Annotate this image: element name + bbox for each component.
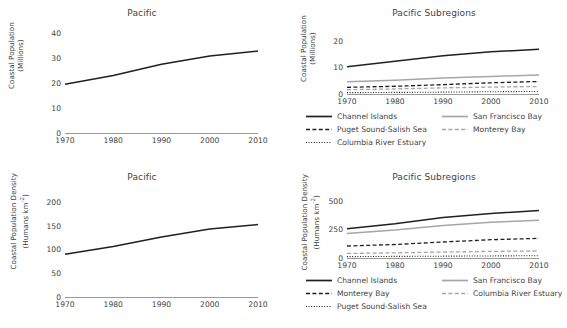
panel-title: Pacific: [0, 8, 284, 18]
series-canvas: [347, 194, 539, 258]
y-tick-label: 40: [33, 29, 61, 38]
x-tick-label: 1970: [55, 300, 74, 309]
legend-label: Puget Sound-Salish Sea: [337, 125, 427, 134]
series-line: [347, 220, 539, 233]
y-tick-label: 50: [33, 269, 61, 278]
x-tick-label: 1980: [104, 136, 123, 145]
legend-swatch-icon: [306, 139, 332, 146]
y-tick-label: 150: [33, 221, 61, 230]
series-line: [347, 75, 539, 82]
legend-item: San Francisco Bay: [442, 276, 542, 285]
y-tick-label: 10: [33, 104, 61, 113]
legend-label: Monterey Bay: [473, 125, 526, 134]
y-tick-label: 10: [315, 63, 343, 72]
legend-label: Channel Islands: [337, 276, 397, 285]
y-tick-label: 250: [315, 225, 343, 234]
plot-area: [347, 30, 539, 94]
y-axis-units: (Humans km: [21, 203, 30, 249]
x-axis-line: [65, 297, 258, 298]
x-tick-label: 2010: [529, 97, 548, 106]
plot-area: [65, 33, 258, 133]
x-tick-label: 1970: [55, 136, 74, 145]
x-tick-label: 1990: [152, 136, 171, 145]
legend-swatch-icon: [442, 113, 468, 120]
x-tick-label: 1990: [433, 97, 452, 106]
legend-item: Puget Sound-Salish Sea: [306, 125, 427, 134]
legend-label: Columbia River Estuary: [473, 289, 562, 298]
legend: Channel IslandsSan Francisco BayMonterey…: [306, 276, 564, 316]
x-tick-label: 1970: [337, 261, 356, 270]
panel-pacific-subregions-density: Pacific Subregions Coastal Population De…: [284, 164, 567, 328]
y-axis-label: Coastal Population (Millions): [300, 4, 317, 94]
y-tick-label: 30: [33, 54, 61, 63]
legend-label: Columbia River Estuary: [337, 138, 426, 147]
legend-item: Monterey Bay: [306, 289, 390, 298]
x-tick-label: 1990: [152, 300, 171, 309]
legend-swatch-icon: [306, 303, 332, 310]
legend-label: Channel Islands: [337, 112, 397, 121]
y-axis-units-close: ): [21, 194, 30, 197]
x-tick-label: 2010: [529, 261, 548, 270]
panel-title: Pacific Subregions: [314, 172, 554, 182]
series-line: [65, 225, 258, 255]
legend: Channel IslandsSan Francisco BayPuget So…: [306, 112, 564, 152]
y-tick-label: 500: [315, 196, 343, 205]
y-axis-label-line1: Coastal Population Density: [9, 173, 18, 269]
series-line: [347, 251, 539, 254]
x-tick-label: 2000: [200, 300, 219, 309]
x-tick-label: 1970: [337, 97, 356, 106]
series-line: [347, 256, 539, 257]
legend-label: Monterey Bay: [337, 289, 390, 298]
series-line: [347, 238, 539, 246]
legend-swatch-icon: [442, 290, 468, 297]
x-tick-label: 2010: [248, 136, 267, 145]
y-axis-label-line1: Coastal Population Density: [300, 174, 309, 270]
x-tick-label: 2000: [481, 97, 500, 106]
x-tick-label: 1980: [104, 300, 123, 309]
x-tick-label: 2010: [248, 300, 267, 309]
y-axis-label: Coastal Population Density (Humans km-2): [10, 166, 31, 276]
legend-label: Puget Sound-Salish Sea: [337, 302, 427, 311]
series-canvas: [65, 197, 258, 297]
legend-item: Columbia River Estuary: [306, 138, 426, 147]
legend-swatch-icon: [306, 126, 332, 133]
x-tick-label: 1980: [385, 261, 404, 270]
legend-label: San Francisco Bay: [473, 112, 542, 121]
x-axis-line: [347, 94, 539, 95]
figure-multi-panel: Pacific Coastal Population (Millions) 01…: [0, 0, 567, 328]
panel-pacific-subregions-population: Pacific Subregions Coastal Population (M…: [284, 0, 567, 164]
x-tick-label: 1990: [433, 261, 452, 270]
panel-pacific-population: Pacific Coastal Population (Millions) 01…: [0, 0, 284, 164]
legend-swatch-icon: [306, 277, 332, 284]
legend-item: Puget Sound-Salish Sea: [306, 302, 427, 311]
series-line: [347, 91, 539, 92]
plot-area: [65, 197, 258, 297]
plot-area: [347, 194, 539, 258]
x-tick-label: 2000: [200, 136, 219, 145]
x-tick-label: 2000: [481, 261, 500, 270]
legend-swatch-icon: [306, 290, 332, 297]
panel-title: Pacific: [0, 172, 284, 182]
legend-label: San Francisco Bay: [473, 276, 542, 285]
y-axis-label-line2: (Millions): [16, 39, 25, 72]
y-tick-label: 200: [33, 197, 61, 206]
y-axis-exponent: -2: [19, 197, 25, 203]
legend-item: Columbia River Estuary: [442, 289, 562, 298]
series-line: [347, 49, 539, 67]
legend-item: Channel Islands: [306, 112, 397, 121]
legend-swatch-icon: [442, 277, 468, 284]
y-axis-label-line2: (Humans km-2): [21, 194, 30, 248]
x-axis-line: [65, 133, 258, 134]
x-axis-line: [347, 258, 539, 259]
x-tick-label: 1980: [385, 97, 404, 106]
legend-item: Monterey Bay: [442, 125, 526, 134]
y-tick-label: 20: [315, 36, 343, 45]
y-tick-label: 100: [33, 245, 61, 254]
series-line: [65, 51, 258, 84]
series-canvas: [65, 33, 258, 133]
legend-item: Channel Islands: [306, 276, 397, 285]
series-canvas: [347, 30, 539, 94]
panel-title: Pacific Subregions: [314, 8, 554, 18]
legend-swatch-icon: [306, 113, 332, 120]
y-tick-label: 20: [33, 79, 61, 88]
